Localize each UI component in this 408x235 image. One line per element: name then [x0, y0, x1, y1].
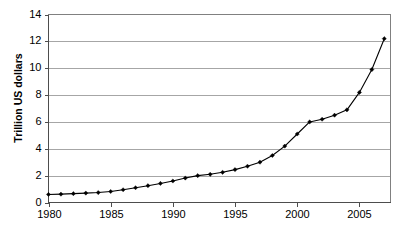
gridlines	[49, 42, 391, 177]
data-series-markers	[46, 37, 386, 197]
svg-text:14: 14	[29, 8, 41, 20]
svg-text:2: 2	[35, 169, 41, 181]
svg-text:6: 6	[35, 115, 41, 127]
svg-text:4: 4	[35, 142, 41, 154]
svg-text:1990: 1990	[161, 208, 185, 220]
x-axis-ticks: 198019851990199520002005	[37, 203, 371, 220]
svg-text:10: 10	[29, 61, 41, 73]
svg-text:1995: 1995	[223, 208, 247, 220]
svg-text:12: 12	[29, 34, 41, 46]
svg-text:1980: 1980	[37, 208, 61, 220]
svg-text:2005: 2005	[347, 208, 371, 220]
plot-area: 02468101214 198019851990199520002005	[0, 0, 408, 235]
svg-text:2000: 2000	[285, 208, 309, 220]
svg-text:1985: 1985	[99, 208, 123, 220]
line-chart: Trillion US dollars 02468101214 19801985…	[0, 0, 408, 235]
svg-text:8: 8	[35, 88, 41, 100]
y-axis-ticks: 02468101214	[29, 8, 48, 208]
plot-border	[49, 15, 391, 203]
